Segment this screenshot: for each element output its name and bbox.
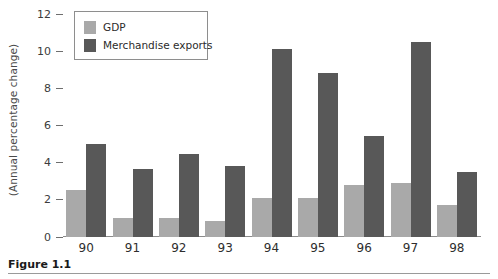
bar-merchandise-exports-96 [364, 136, 384, 237]
bar-merchandise-exports-98 [457, 172, 477, 237]
bar-gdp-90 [66, 190, 86, 237]
y-axis-tick-mark [56, 162, 63, 163]
y-axis-tick-label: 12 [37, 9, 51, 20]
x-axis-label-95: 95 [293, 241, 343, 255]
x-axis-label-92: 92 [154, 241, 204, 255]
y-axis-tick-mark [56, 14, 63, 15]
y-axis-tick-mark [56, 51, 63, 52]
y-axis-tick-mark [56, 237, 63, 238]
y-axis-tick-mark [56, 88, 63, 89]
y-axis-tick-label: 6 [44, 120, 51, 131]
legend-swatch-merchandise-exports-icon [84, 39, 96, 52]
bar-merchandise-exports-97 [411, 42, 431, 237]
y-axis-tick-mark [56, 199, 63, 200]
legend-label-merchandise-exports: Merchandise exports [103, 39, 212, 51]
bar-gdp-97 [391, 183, 411, 237]
x-axis-label-90: 90 [61, 241, 111, 255]
y-axis-tick-label: 8 [44, 83, 51, 94]
bar-merchandise-exports-91 [133, 169, 153, 237]
bar-merchandise-exports-94 [272, 49, 292, 237]
x-axis-label-97: 97 [386, 241, 436, 255]
x-axis-label-96: 96 [339, 241, 389, 255]
y-axis-tick-label: 4 [44, 157, 51, 168]
bar-gdp-92 [159, 218, 179, 237]
bar-group [344, 14, 384, 237]
bar-merchandise-exports-92 [179, 154, 199, 237]
x-axis-label-93: 93 [200, 241, 250, 255]
y-axis-title-text: (Annual percentage change) [7, 44, 19, 196]
bar-merchandise-exports-90 [86, 144, 106, 237]
caption-divider [8, 273, 490, 274]
bar-gdp-91 [113, 218, 133, 237]
y-axis-tick-label: 2 [44, 194, 51, 205]
legend-swatch-gdp-icon [84, 21, 96, 34]
x-axis-label-94: 94 [247, 241, 297, 255]
bar-gdp-96 [344, 185, 364, 237]
bar-group [252, 14, 292, 237]
x-axis-label-98: 98 [432, 241, 482, 255]
legend-item-gdp: GDP [84, 18, 207, 36]
figure-container: (Annual percentage change) 024681012 909… [0, 0, 498, 279]
legend-label-gdp: GDP [103, 21, 126, 33]
legend-item-merchandise-exports: Merchandise exports [84, 36, 207, 54]
chart-legend: GDP Merchandise exports [74, 11, 208, 60]
bar-merchandise-exports-95 [318, 73, 338, 237]
bar-group [391, 14, 431, 237]
x-axis-label-91: 91 [108, 241, 158, 255]
bar-gdp-93 [205, 221, 225, 237]
y-axis-title: (Annual percentage change) [0, 0, 26, 240]
y-axis-tick-mark [56, 125, 63, 126]
bar-group [437, 14, 477, 237]
bar-merchandise-exports-93 [225, 166, 245, 237]
figure-caption: Figure 1.1 [8, 258, 71, 271]
y-axis-tick-label: 10 [37, 46, 51, 57]
bar-gdp-94 [252, 198, 272, 237]
bar-gdp-95 [298, 198, 318, 237]
bar-group [298, 14, 338, 237]
bar-gdp-98 [437, 205, 457, 237]
y-axis-tick-label: 0 [44, 232, 51, 243]
